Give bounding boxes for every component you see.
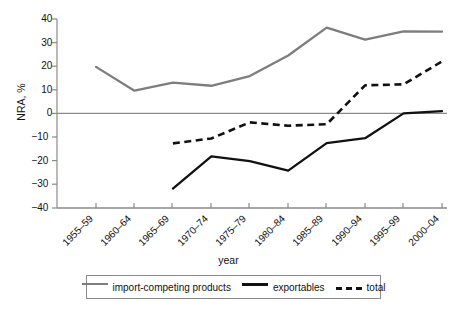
series-line-import-competing-products xyxy=(96,28,442,91)
legend-item-import-competing-products: import-competing products xyxy=(82,280,231,294)
legend-label: total xyxy=(367,282,386,293)
legend-item-total: total xyxy=(336,282,386,293)
plot-area xyxy=(0,0,457,314)
legend-label: exportables xyxy=(273,282,325,293)
legend-label: import-competing products xyxy=(113,282,231,293)
y-tick-marks xyxy=(52,19,57,208)
legend-item-exportables: exportables xyxy=(242,280,325,295)
chart-container: NRA, % 40 30 20 10 0 −10 −20 −30 −40 xyxy=(0,0,457,314)
x-axis-title: year xyxy=(0,254,457,266)
chart-legend: import-competing products exportables to… xyxy=(86,275,381,299)
series-line-exportables xyxy=(173,111,442,188)
black-dashed-line-icon xyxy=(336,287,362,290)
gray-solid-line-icon xyxy=(82,283,108,294)
x-tick-marks xyxy=(96,203,442,208)
black-solid-line-icon xyxy=(242,283,268,295)
series-line-total xyxy=(173,61,442,143)
